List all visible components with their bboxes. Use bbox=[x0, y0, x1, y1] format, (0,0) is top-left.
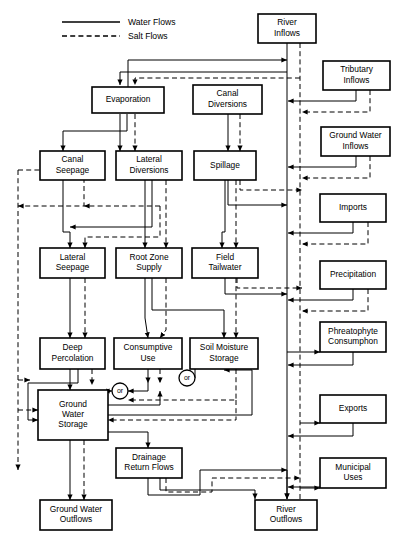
salt-edge-17 bbox=[160, 278, 166, 338]
node-river-inflows[interactable]: RiverInflows bbox=[258, 14, 316, 43]
legend-label-1: Salt Flows bbox=[128, 31, 168, 41]
node-exports[interactable]: Exports bbox=[320, 395, 386, 423]
or-junction-or-right: or bbox=[179, 370, 195, 386]
node-label-lateral-seepage: LateralSeepage bbox=[56, 252, 90, 272]
water-edge-17 bbox=[152, 278, 224, 338]
node-phreatophyte[interactable]: PhreatophyteConsumphon bbox=[320, 322, 386, 352]
water-salt-flow-diagram: Water FlowsSalt Flows RiverInflowsTribut… bbox=[0, 0, 397, 542]
node-drainage-return[interactable]: DrainageReturn Flows bbox=[116, 448, 182, 478]
node-ground-water-storage[interactable]: GroundWaterStorage bbox=[38, 390, 108, 440]
water-edge-34 bbox=[288, 352, 353, 365]
node-label-precipitation: Precipitation bbox=[330, 269, 376, 279]
or-label: or bbox=[184, 374, 191, 381]
node-canal-seepage[interactable]: CanalSeepage bbox=[40, 151, 105, 180]
water-edge-9 bbox=[63, 180, 70, 248]
water-edge-16 bbox=[145, 278, 148, 338]
water-edge-21 bbox=[128, 383, 148, 391]
node-ground-water-inflows[interactable]: Ground WaterInflows bbox=[321, 127, 390, 156]
water-edge-29 bbox=[160, 478, 255, 499]
node-canal-diversions[interactable]: CanalDiversions bbox=[193, 85, 262, 114]
node-evaporation[interactable]: Evaporation bbox=[92, 87, 164, 113]
water-edge-37 bbox=[128, 60, 287, 87]
node-municipal-uses[interactable]: MunicipalUses bbox=[320, 458, 386, 488]
node-label-phreatophyte: PhreatophyteConsumphon bbox=[328, 326, 378, 346]
water-edge-11 bbox=[70, 180, 152, 227]
salt-edge-27 bbox=[108, 400, 236, 420]
or-junction-or-left: or bbox=[112, 383, 128, 399]
process-nodes: RiverInflowsTributaryInflowsEvaporationC… bbox=[38, 14, 390, 530]
salt-edge-1 bbox=[135, 78, 300, 85]
node-lateral-diversions[interactable]: LateralDiversions bbox=[116, 151, 182, 180]
node-label-ground-water-storage: GroundWaterStorage bbox=[58, 399, 88, 429]
water-edge-14 bbox=[225, 278, 287, 294]
node-label-spillage: Spillage bbox=[210, 160, 240, 170]
node-lateral-seepage[interactable]: LateralSeepage bbox=[40, 248, 105, 278]
salt-edge-9 bbox=[237, 278, 302, 288]
node-label-evaporation: Evaporation bbox=[106, 94, 151, 104]
node-label-tributary-inflows: TributaryInflows bbox=[340, 65, 374, 85]
legend-label-0: Water Flows bbox=[128, 17, 175, 27]
water-edge-5 bbox=[288, 156, 356, 167]
or-junctions: oror bbox=[112, 370, 195, 399]
node-deep-percolation[interactable]: DeepPercolation bbox=[40, 338, 105, 369]
water-edge-7 bbox=[288, 289, 353, 300]
salt-edge-8 bbox=[240, 180, 302, 190]
node-label-exports: Exports bbox=[339, 403, 367, 413]
node-label-river-inflows: RiverInflows bbox=[274, 18, 300, 38]
node-label-imports: Imports bbox=[339, 202, 367, 212]
salt-flow-edges bbox=[18, 43, 370, 530]
node-imports[interactable]: Imports bbox=[320, 194, 386, 222]
node-root-zone-supply[interactable]: Root ZoneSupply bbox=[116, 248, 182, 278]
node-ground-water-outflows[interactable]: Ground WaterOutflows bbox=[40, 500, 112, 530]
node-river-outflows[interactable]: RiverOutflows bbox=[255, 500, 317, 530]
node-precipitation[interactable]: Precipitation bbox=[320, 261, 386, 289]
water-edge-1 bbox=[120, 72, 287, 85]
water-edge-26 bbox=[108, 432, 148, 448]
water-edge-4 bbox=[288, 90, 356, 101]
legend: Water FlowsSalt Flows bbox=[62, 17, 175, 41]
node-field-tailwater[interactable]: FieldTailwater bbox=[192, 248, 258, 278]
node-soil-moisture-storage[interactable]: Soil MoistureStorage bbox=[190, 338, 258, 369]
node-consumptive-use[interactable]: ConsumptiveUse bbox=[114, 338, 182, 369]
water-edge-6 bbox=[288, 222, 353, 233]
node-tributary-inflows[interactable]: TributaryInflows bbox=[323, 61, 390, 90]
water-edge-13 bbox=[228, 180, 287, 205]
water-edge-35 bbox=[288, 423, 353, 436]
or-label: or bbox=[117, 387, 124, 394]
node-spillage[interactable]: Spillage bbox=[194, 151, 256, 180]
water-edge-12 bbox=[222, 180, 225, 248]
water-edge-3 bbox=[63, 114, 127, 151]
